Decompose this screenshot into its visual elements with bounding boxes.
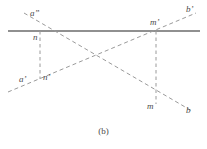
label-b: b <box>186 106 191 115</box>
label-n-prime: n’ <box>43 73 51 82</box>
label-m-prime: m’ <box>150 18 160 27</box>
label-n: n <box>33 33 38 42</box>
label-m: m <box>147 102 154 111</box>
line-a-double-prime-b <box>24 13 192 111</box>
label-a-prime: a’ <box>19 75 27 84</box>
label-a-double-prime: a” <box>30 9 40 18</box>
line-a-prime-b-prime <box>8 13 196 92</box>
label-b-prime: b’ <box>186 5 194 14</box>
figure-caption: (b) <box>0 126 207 136</box>
figure-container: a” n m’ b’ a’ n’ m b (b) <box>0 0 207 149</box>
